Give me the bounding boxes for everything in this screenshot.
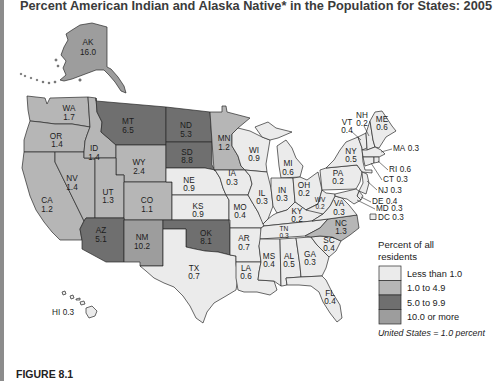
state-shape-hi-big-island [86, 306, 97, 318]
label-hi: HI0.3 [52, 308, 75, 317]
legend-swatch-5-to-9-9 [379, 295, 401, 310]
label-nc-value: 1.3 [335, 227, 347, 236]
dc-swatch [370, 214, 376, 220]
state-shape-hi-molokai [76, 298, 80, 300]
label-nd-value: 5.3 [180, 130, 192, 139]
label-mo-value: 0.4 [234, 211, 246, 220]
label-ct: CT0.3 [383, 175, 408, 184]
legend-title-line2: residents [378, 251, 417, 262]
label-ak-abbr: AK [83, 38, 94, 47]
legend-label-5-to-9-9: 5.0 to 9.9 [407, 298, 445, 308]
label-tn-value: 0.3 [279, 232, 288, 239]
label-il-value: 0.3 [256, 197, 268, 206]
label-ms-value: 0.4 [263, 260, 275, 269]
label-ny-value: 0.5 [345, 155, 357, 164]
label-ut-value: 1.3 [102, 196, 114, 205]
state-ak [20, 23, 126, 93]
label-la-value: 0.6 [240, 272, 252, 281]
figure-number: FIGURE 8.1 [16, 368, 73, 380]
label-wy-abbr: WY [132, 158, 146, 167]
legend-us-average-note: United States = 1.0 percent [378, 328, 485, 338]
label-in-value: 0.3 [276, 194, 288, 203]
label-mi-abbr: MI [283, 159, 292, 168]
label-co-value: 1.1 [141, 205, 153, 214]
label-fl-value: 0.4 [324, 297, 336, 306]
label-ok-value: 8.1 [200, 237, 212, 246]
label-id-abbr: ID [90, 144, 98, 153]
label-mi-value: 0.6 [282, 168, 294, 177]
label-nm-abbr: NM [136, 233, 149, 242]
label-mt-abbr: MT [122, 117, 134, 126]
map-legend: Percent of all residents Less than 1.0 1… [378, 239, 485, 338]
label-wi-value: 0.9 [248, 154, 260, 163]
label-vt-value: 0.4 [341, 126, 353, 135]
label-az-abbr: AZ [96, 226, 106, 235]
label-va-value: 0.3 [333, 208, 345, 217]
legend-swatch-10-or-more [379, 310, 401, 325]
label-nd-abbr: ND [180, 121, 192, 130]
label-wv-abbr: WV [315, 196, 326, 203]
label-ri: RI0.6 [389, 165, 412, 174]
label-tn-abbr: TN [280, 225, 289, 232]
label-nh-value: 0.2 [356, 119, 368, 128]
label-or-value: 1.4 [51, 140, 63, 149]
label-nj: NJ0.3 [378, 186, 402, 195]
figure-title: Percent American Indian and Alaska Nativ… [20, 0, 492, 13]
label-dc: DC0.3 [378, 213, 404, 222]
figure-canvas: Percent American Indian and Alaska Nativ… [0, 0, 499, 381]
legend-title-line1: Percent of all [378, 239, 434, 250]
legend-label-10-or-more: 10.0 or more [407, 312, 459, 322]
label-sd-value: 8.8 [181, 156, 193, 165]
label-sc-value: 0.4 [323, 244, 335, 253]
label-co-abbr: CO [141, 196, 153, 205]
us-map: AK 16.0 HI0.3 WA 1.7 OR 1.4 CA 1.2 NV 1.… [20, 23, 419, 323]
label-wa-value: 1.7 [63, 113, 75, 122]
left-margin-bar [0, 0, 4, 381]
label-oh-value: 0.2 [298, 189, 310, 198]
label-al-value: 0.5 [283, 260, 295, 269]
label-ky-value: 0.2 [291, 215, 303, 224]
label-pa-value: 0.2 [332, 177, 344, 186]
state-shape-ak [60, 23, 126, 93]
label-nv-abbr: NV [66, 174, 78, 183]
legend-label-1-to-4-9: 1.0 to 4.9 [407, 283, 445, 293]
label-nv-value: 1.4 [66, 183, 78, 192]
label-az-value: 5.1 [95, 235, 107, 244]
label-ca-value: 1.2 [41, 205, 53, 214]
label-va-abbr: VA [334, 199, 345, 208]
state-shape-hi-oahu [70, 295, 74, 299]
legend-swatch-less-than-1 [379, 266, 401, 281]
label-wa-abbr: WA [63, 104, 76, 113]
legend-swatch-1-to-4-9 [379, 281, 401, 296]
label-ne-value: 0.9 [183, 184, 195, 193]
label-ak-value: 16.0 [80, 48, 96, 57]
label-mn-abbr: MN [218, 134, 231, 143]
label-wv-value: 0.2 [315, 203, 324, 210]
label-me-value: 0.6 [376, 123, 388, 132]
label-id-value: 1.4 [88, 153, 100, 162]
label-ar-value: 0.7 [238, 243, 250, 252]
label-ia-abbr: IA [228, 169, 236, 178]
label-ks-value: 0.9 [192, 210, 204, 219]
state-shape-hi-maui [80, 301, 85, 305]
label-mt-value: 6.5 [122, 126, 134, 135]
legend-label-less-than-1: Less than 1.0 [407, 269, 462, 279]
label-ma: MA0.3 [393, 144, 420, 153]
state-shape-ri [374, 157, 379, 163]
label-ar-abbr: AR [238, 234, 249, 243]
label-nm-value: 10.2 [134, 242, 150, 251]
label-ca-abbr: CA [41, 196, 53, 205]
label-tx-value: 0.7 [188, 272, 200, 281]
label-ia-value: 0.3 [226, 178, 238, 187]
label-mn-value: 1.2 [218, 143, 230, 152]
label-ga-value: 0.3 [304, 258, 316, 267]
state-shape-hi-kauai [62, 291, 66, 295]
label-wy-value: 2.4 [133, 167, 145, 176]
